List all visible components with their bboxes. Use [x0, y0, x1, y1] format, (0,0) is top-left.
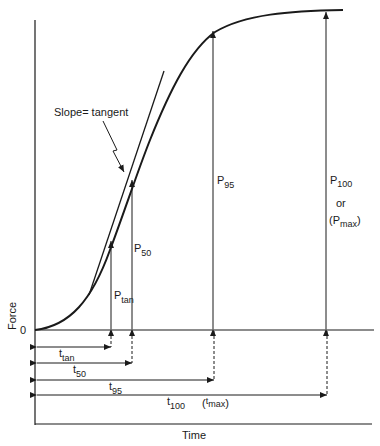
slope-annotation-arrow — [103, 121, 124, 172]
slope-annotation: Slope= tangent — [54, 106, 128, 118]
t-50-label: t50 — [73, 363, 86, 379]
tangent-line — [89, 71, 164, 295]
t-max-label: (tmax) — [202, 396, 229, 409]
diagram-svg: Slope= tangent 0 Force Time Ptan P50 P95… — [0, 0, 380, 446]
origin-label: 0 — [20, 324, 26, 336]
p-tan-label: Ptan — [114, 289, 134, 305]
p-100-or-label: or — [336, 197, 346, 209]
force-curve — [35, 10, 343, 330]
t-tan-label: ttan — [59, 347, 75, 363]
force-time-diagram: Slope= tangent 0 Force Time Ptan P50 P95… — [0, 0, 380, 446]
p-max-label: (Pmax) — [329, 214, 361, 229]
x-axis-label: Time — [182, 429, 206, 441]
t-100-label: t100 — [167, 395, 185, 411]
p-100-label: P100 — [330, 174, 352, 189]
p-95-label: P95 — [217, 174, 234, 190]
y-axis-label: Force — [6, 302, 18, 330]
p-50-label: P50 — [134, 242, 151, 258]
t-95-label: t95 — [109, 380, 122, 396]
